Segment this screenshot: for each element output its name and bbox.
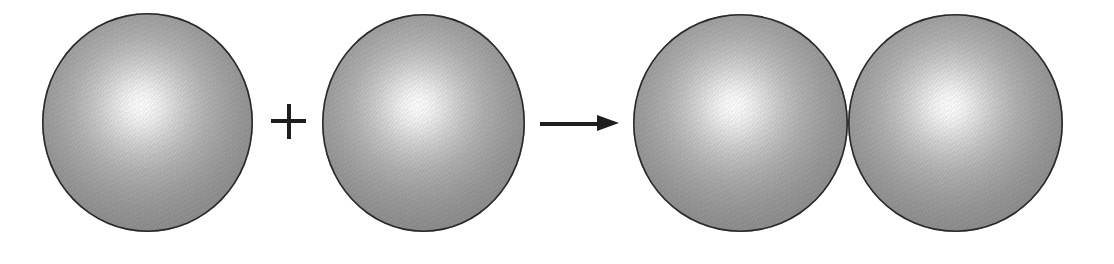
sphere-product-1: Left sphere of the touching pair	[633, 14, 848, 232]
sphere-reactant-1-label: Shaded sphere with upper-left highlight	[42, 13, 43, 14]
arrow-glyph: →	[540, 113, 541, 114]
plus-sign-glyph: +	[271, 104, 272, 105]
plus-vertical-bar	[287, 104, 291, 139]
sphere-product-2: Right sphere of the touching pair	[848, 14, 1063, 232]
figure-canvas: Shaded sphere with upper-left highlight …	[0, 0, 1114, 264]
sphere-reactant-1: Shaded sphere with upper-left highlight	[42, 13, 253, 232]
arrow-shaft	[540, 122, 605, 126]
plus-sign-icon: +	[271, 104, 306, 139]
sphere-product-2-label: Right sphere of the touching pair	[848, 14, 849, 15]
sphere-reactant-2-label: Shaded sphere with upper-left highlight	[322, 14, 323, 15]
sphere-product-1-label: Left sphere of the touching pair	[633, 14, 634, 15]
rightwards-arrow-icon: →	[540, 113, 620, 135]
sphere-reactant-2: Shaded sphere with upper-left highlight	[322, 14, 525, 232]
arrow-head	[597, 115, 619, 131]
